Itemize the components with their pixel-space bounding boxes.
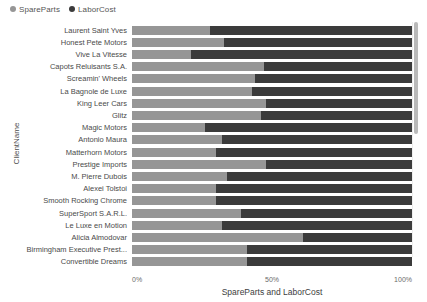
x-tick-2: 100%: [394, 276, 412, 283]
legend-item-laborcost[interactable]: LaborCost: [69, 5, 116, 14]
bar-row: Glitz: [26, 109, 412, 121]
bar-row: Antonio Maura: [26, 134, 412, 146]
bar-segment-spareparts[interactable]: [132, 87, 252, 96]
x-tick-1: 50%: [265, 276, 279, 283]
stacked-bar[interactable]: [132, 74, 412, 83]
bar-row-label: Birmingham Executive Prest...: [26, 245, 132, 254]
bar-row: Matterhorn Motors: [26, 146, 412, 158]
stacked-bar[interactable]: [132, 184, 412, 193]
bar-segment-spareparts[interactable]: [132, 38, 224, 47]
chart-area: ClientName Laurent Saint YvesHonest Pete…: [0, 18, 427, 276]
stacked-bar[interactable]: [132, 245, 412, 254]
stacked-bar[interactable]: [132, 38, 412, 47]
stacked-bar[interactable]: [132, 50, 412, 59]
bar-segment-spareparts[interactable]: [132, 62, 264, 71]
bar-segment-spareparts[interactable]: [132, 148, 216, 157]
bar-row-label: Antonio Maura: [26, 135, 132, 144]
bar-segment-spareparts[interactable]: [132, 135, 222, 144]
bar-row-label: Alexei Tolstoi: [26, 184, 132, 193]
bar-row-label: M. Pierre Dubois: [26, 172, 132, 181]
stacked-bar[interactable]: [132, 135, 412, 144]
bar-segment-spareparts[interactable]: [132, 257, 247, 266]
stacked-bar[interactable]: [132, 26, 412, 35]
bar-segment-laborcost[interactable]: [216, 196, 412, 205]
bar-segment-laborcost[interactable]: [266, 99, 412, 108]
bar-row: Prestige Imports: [26, 158, 412, 170]
bar-segment-spareparts[interactable]: [132, 209, 241, 218]
bar-segment-spareparts[interactable]: [132, 123, 205, 132]
bar-rows: Laurent Saint YvesHonest Pete MotorsVive…: [26, 24, 412, 268]
bar-segment-spareparts[interactable]: [132, 245, 247, 254]
legend-label-laborcost: LaborCost: [78, 5, 116, 14]
bar-row-label: Prestige Imports: [26, 160, 132, 169]
stacked-bar[interactable]: [132, 111, 412, 120]
bar-row: Smooth Rocking Chrome: [26, 195, 412, 207]
stacked-bar[interactable]: [132, 62, 412, 71]
bar-segment-spareparts[interactable]: [132, 160, 266, 169]
bar-segment-spareparts[interactable]: [132, 26, 210, 35]
bar-row-label: Convertible Dreams: [26, 257, 132, 266]
bar-segment-laborcost[interactable]: [216, 148, 412, 157]
bar-segment-spareparts[interactable]: [132, 74, 255, 83]
bar-segment-laborcost[interactable]: [222, 135, 412, 144]
bar-row: Capots Reluisants S.A.: [26, 61, 412, 73]
chart-legend: SpareParts LaborCost: [10, 2, 116, 16]
bar-segment-laborcost[interactable]: [222, 221, 412, 230]
vertical-scrollbar[interactable]: [412, 22, 420, 257]
bar-segment-laborcost[interactable]: [303, 233, 412, 242]
stacked-bar[interactable]: [132, 99, 412, 108]
stacked-bar[interactable]: [132, 160, 412, 169]
bar-segment-spareparts[interactable]: [132, 221, 222, 230]
bar-segment-laborcost[interactable]: [252, 87, 412, 96]
bar-segment-laborcost[interactable]: [227, 172, 412, 181]
bar-row-label: Capots Reluisants S.A.: [26, 62, 132, 71]
bar-segment-laborcost[interactable]: [241, 209, 412, 218]
bar-segment-spareparts[interactable]: [132, 184, 216, 193]
stacked-bar[interactable]: [132, 196, 412, 205]
stacked-bar[interactable]: [132, 233, 412, 242]
bar-segment-laborcost[interactable]: [266, 160, 412, 169]
bar-row-label: Le Luxe en Motion: [26, 221, 132, 230]
stacked-bar[interactable]: [132, 123, 412, 132]
bar-segment-spareparts[interactable]: [132, 233, 303, 242]
stacked-bar[interactable]: [132, 221, 412, 230]
bar-row: Laurent Saint Yves: [26, 24, 412, 36]
bar-row-label: Glitz: [26, 111, 132, 120]
bar-row: Alexei Tolstoi: [26, 183, 412, 195]
bar-segment-spareparts[interactable]: [132, 50, 191, 59]
bar-row: M. Pierre Dubois: [26, 170, 412, 182]
y-axis-title: ClientName: [10, 18, 24, 268]
bar-segment-laborcost[interactable]: [247, 245, 412, 254]
bar-row-label: SuperSport S.A.R.L.: [26, 209, 132, 218]
bar-segment-laborcost[interactable]: [191, 50, 412, 59]
bar-segment-laborcost[interactable]: [264, 62, 412, 71]
bar-row: Birmingham Executive Prest...: [26, 244, 412, 256]
bar-segment-spareparts[interactable]: [132, 111, 261, 120]
bar-segment-laborcost[interactable]: [210, 26, 412, 35]
bar-row-label: Honest Pete Motors: [26, 38, 132, 47]
bar-segment-spareparts[interactable]: [132, 196, 216, 205]
bar-segment-laborcost[interactable]: [216, 184, 412, 193]
bar-row-label: Magic Motors: [26, 123, 132, 132]
stacked-bar[interactable]: [132, 172, 412, 181]
stacked-bar[interactable]: [132, 87, 412, 96]
bar-row: Convertible Dreams: [26, 256, 412, 268]
circle-marker-icon: [69, 6, 75, 12]
stacked-bar[interactable]: [132, 257, 412, 266]
bar-segment-laborcost[interactable]: [255, 74, 412, 83]
bar-segment-laborcost[interactable]: [247, 257, 412, 266]
bar-segment-spareparts[interactable]: [132, 99, 266, 108]
bar-segment-spareparts[interactable]: [132, 172, 227, 181]
stacked-bar[interactable]: [132, 148, 412, 157]
bar-segment-laborcost[interactable]: [261, 111, 412, 120]
bar-row-label: Vive La Vitesse: [26, 50, 132, 59]
bar-segment-laborcost[interactable]: [224, 38, 412, 47]
bar-row-label: Smooth Rocking Chrome: [26, 196, 132, 205]
vertical-scrollbar-thumb[interactable]: [414, 22, 418, 134]
bar-row: SuperSport S.A.R.L.: [26, 207, 412, 219]
bar-row: King Leer Cars: [26, 97, 412, 109]
bar-row: Honest Pete Motors: [26, 36, 412, 48]
bar-segment-laborcost[interactable]: [205, 123, 412, 132]
stacked-bar[interactable]: [132, 209, 412, 218]
legend-item-spareparts[interactable]: SpareParts: [10, 5, 60, 14]
